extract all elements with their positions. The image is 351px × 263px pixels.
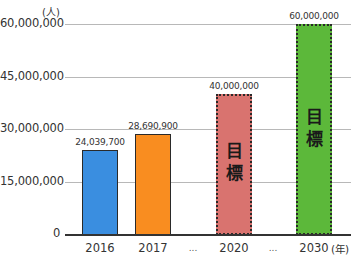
target-char-1: 目	[298, 106, 330, 128]
x-tick-2016: 2016	[70, 241, 130, 255]
value-label-2017: 28,690,900	[113, 121, 193, 131]
x-gap-marker-2: ...	[263, 243, 283, 253]
x-axis-line	[65, 234, 351, 236]
y-tick-0: 0	[0, 226, 60, 240]
y-tick-60m: 60,000,000	[0, 16, 60, 30]
y-tick-15m: 15,000,000	[0, 174, 60, 188]
x-gap-marker-1: ...	[183, 243, 203, 253]
value-label-2016: 24,039,700	[60, 137, 140, 147]
bar-2017	[135, 134, 171, 235]
target-char-1: 目	[218, 140, 250, 162]
value-label-2030: 60,000,000	[274, 11, 351, 21]
x-tick-2017: 2017	[123, 241, 183, 255]
target-char-2: 標	[218, 162, 250, 184]
x-tick-2020: 2020	[204, 241, 264, 255]
x-axis-unit: (年)	[328, 241, 351, 256]
bar-2016	[82, 150, 118, 235]
bar-2020-target: 目 標	[216, 94, 252, 235]
y-tick-45m: 45,000,000	[0, 69, 60, 83]
y-tick-30m: 30,000,000	[0, 121, 60, 135]
value-label-2020: 40,000,000	[194, 81, 274, 91]
target-char-2: 標	[298, 128, 330, 150]
bar-2030-target: 目 標	[296, 24, 332, 235]
